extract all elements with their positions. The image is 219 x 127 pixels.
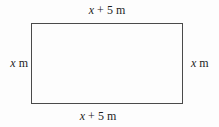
top-label-variable: x	[89, 3, 94, 17]
left-label-unit: m	[19, 56, 28, 70]
left-label-variable: x	[10, 56, 15, 70]
right-label-unit: m	[199, 56, 208, 70]
left-side-label: x m	[10, 56, 28, 70]
bottom-label-expression: + 5 m	[88, 109, 116, 123]
rectangle-shape	[31, 23, 183, 104]
figure-canvas: x + 5 m x m x m x + 5 m	[0, 0, 219, 127]
right-label-variable: x	[191, 56, 196, 70]
bottom-label-variable: x	[80, 109, 85, 123]
bottom-side-label: x + 5 m	[80, 109, 116, 123]
right-side-label: x m	[191, 56, 209, 70]
top-side-label: x + 5 m	[89, 3, 125, 17]
top-label-expression: + 5 m	[97, 3, 125, 17]
